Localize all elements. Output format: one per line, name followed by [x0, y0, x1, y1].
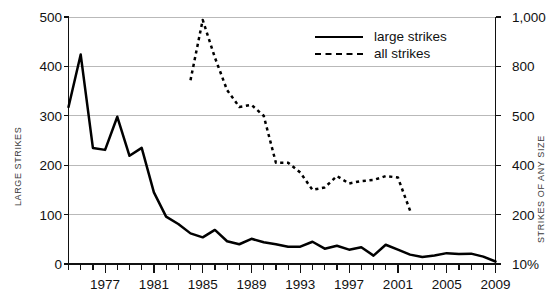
x-axis-tick-label: 1977 — [90, 277, 120, 292]
y-axis-right-tick-label: 200 — [512, 207, 535, 222]
y-axis-left-labels: 0100200300400500 — [0, 0, 62, 304]
x-axis-tick-label: 1989 — [236, 277, 266, 292]
x-axis-tick-label: 1997 — [334, 277, 364, 292]
y-axis-right-tick-label: 10% — [512, 257, 539, 272]
legend-item: large strikes — [315, 28, 447, 45]
legend-dashed-line-icon — [315, 53, 363, 55]
y-axis-left-tick-label: 0 — [6, 257, 62, 272]
y-axis-right-title: STRIKES OF ANY SIZE — [536, 135, 546, 243]
x-axis-tick-label: 1993 — [285, 277, 315, 292]
y-axis-left-title: LARGE STRIKES — [13, 127, 23, 206]
y-axis-right-tick-label: 1,000 — [512, 10, 546, 25]
x-axis-tick-label: 1985 — [188, 277, 218, 292]
x-axis-labels: 197719811985198919931997200120052009 — [0, 277, 549, 297]
y-axis-left-tick-label: 300 — [6, 108, 62, 123]
x-axis-tick-label: 2009 — [480, 277, 510, 292]
legend-item-label: large strikes — [374, 29, 447, 44]
y-axis-left-tick-label: 400 — [6, 59, 62, 74]
x-axis-tick-label: 2001 — [383, 277, 413, 292]
x-axis-tick-label: 2005 — [432, 277, 462, 292]
y-axis-left-tick-label: 100 — [6, 207, 62, 222]
plot-canvas — [0, 0, 549, 304]
x-axis-tick-label: 1981 — [139, 277, 169, 292]
legend-item-label: all strikes — [374, 46, 430, 61]
y-axis-left-tick-label: 500 — [6, 10, 62, 25]
legend-solid-line-icon — [315, 36, 363, 38]
strikes-line-chart: 0100200300400500 10%2004005008001,000 19… — [0, 0, 549, 304]
legend-item: all strikes — [315, 45, 447, 62]
chart-legend: large strikesall strikes — [315, 28, 447, 62]
y-axis-right-tick-label: 400 — [512, 158, 535, 173]
y-axis-right-tick-label: 800 — [512, 59, 535, 74]
y-axis-right-tick-label: 500 — [512, 108, 535, 123]
